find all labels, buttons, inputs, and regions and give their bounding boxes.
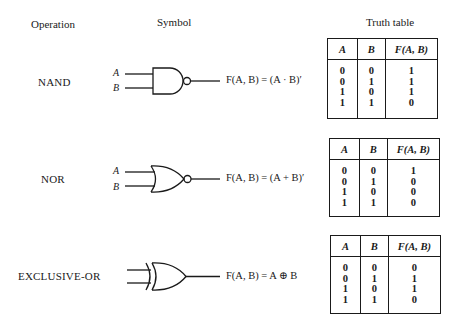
nand-input-b-label: B <box>113 82 119 93</box>
column-header-f: F(A, B) <box>387 139 439 160</box>
nor-expression: F(A, B) = (A + B)′ <box>226 172 304 183</box>
column-f-values: 0 1 1 0 <box>388 257 440 314</box>
column-header-a: A <box>330 139 360 160</box>
nor-input-a-label: A <box>113 165 119 176</box>
column-header-f: F(A, B) <box>385 39 437 60</box>
column-header-b: B <box>360 236 388 257</box>
column-f-values: 1 0 0 0 <box>387 160 439 217</box>
column-f-values: 1 1 1 0 <box>385 60 437 119</box>
nor-input-b-label: B <box>113 181 119 192</box>
column-a-values: 0 0 1 1 <box>331 257 361 314</box>
column-header-a: A <box>331 236 361 257</box>
operation-nand: NAND <box>38 76 71 88</box>
column-header-f: F(A, B) <box>388 236 440 257</box>
column-b-values: 0 1 0 1 <box>357 60 385 119</box>
nor-truth-table: A B F(A, B) 0 0 1 1 0 1 0 1 1 0 0 0 <box>329 138 440 217</box>
nor-gate-icon <box>125 166 220 192</box>
operation-nor: NOR <box>41 173 65 185</box>
nand-expression: F(A, B) = (A · B)′ <box>226 74 302 85</box>
xor-truth-table: A B F(A, B) 0 0 1 1 0 1 0 1 0 1 1 0 <box>330 235 441 314</box>
column-a-values: 0 0 1 1 <box>330 160 360 217</box>
column-header-b: B <box>357 39 385 60</box>
nand-truth-table: A B F(A, B) 0 0 1 1 0 1 0 1 1 1 1 0 <box>327 38 438 119</box>
column-header-a: A <box>328 39 358 60</box>
column-a-values: 0 0 1 1 <box>328 60 358 119</box>
nand-gate-icon <box>125 68 220 94</box>
nand-input-a-label: A <box>113 67 119 78</box>
column-b-values: 0 1 0 1 <box>359 160 387 217</box>
operation-exclusive-or: EXCLUSIVE-OR <box>18 270 100 282</box>
xor-gate-icon <box>127 263 220 290</box>
column-header-b: B <box>359 139 387 160</box>
column-b-values: 0 1 0 1 <box>360 257 388 314</box>
xor-expression: F(A, B) = A ⊕ B <box>226 269 297 281</box>
